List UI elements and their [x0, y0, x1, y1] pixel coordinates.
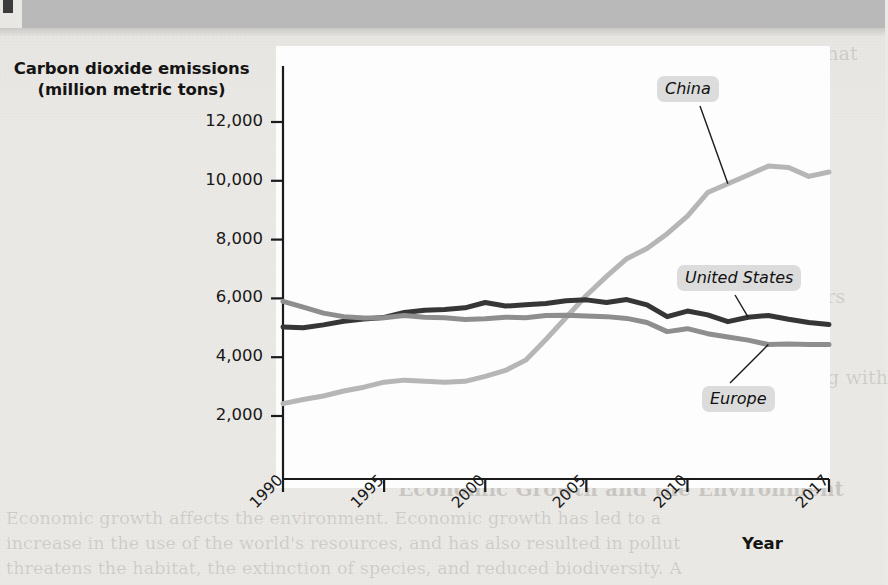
y-axis-tick-label: 2,000 [153, 405, 263, 424]
series-label-china: China [657, 76, 719, 102]
y-axis-tick-label: 6,000 [153, 287, 263, 306]
leader-line-united-states [735, 295, 748, 317]
y-axis-tick-label: 4,000 [153, 346, 263, 365]
leader-line-europe [730, 345, 768, 383]
y-axis-tick-label: 8,000 [153, 229, 263, 248]
y-axis-ticks [271, 122, 283, 416]
y-axis-tick-label: 12,000 [153, 111, 263, 130]
series-label-united-states: United States [677, 265, 801, 291]
y-axis-tick-label: 10,000 [153, 170, 263, 189]
leader-line-china [700, 106, 728, 184]
series-label-europe: Europe [702, 386, 775, 412]
series-line-europe [283, 301, 829, 344]
